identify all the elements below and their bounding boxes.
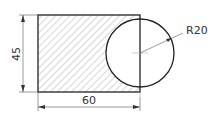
arrow-up-icon [21, 15, 25, 22]
radius-label: R20 [186, 24, 208, 37]
arrow-left-icon [38, 105, 45, 109]
technical-drawing: R20 45 60 [0, 0, 220, 121]
radius-leader [140, 33, 183, 53]
height-label: 45 [10, 47, 23, 61]
arrow-down-icon [21, 85, 25, 92]
hatched-region [38, 15, 140, 92]
width-label: 60 [82, 94, 96, 107]
arrow-right-icon [133, 105, 140, 109]
